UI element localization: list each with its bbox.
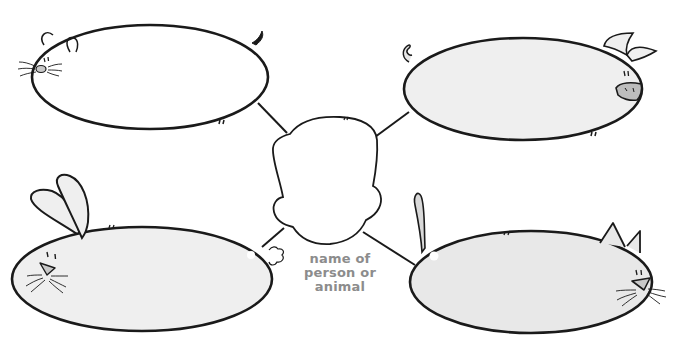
mouse-node[interactable] <box>18 25 268 129</box>
center-label-line-3: animal <box>290 280 390 294</box>
mouse-nose-icon <box>36 66 46 73</box>
rabbit-tail-icon <box>269 247 283 265</box>
pig-tail-icon <box>403 45 412 62</box>
diagram-canvas <box>0 0 685 354</box>
center-label: name of person or animal <box>290 252 390 294</box>
pig-feet-icon <box>591 132 596 136</box>
cat-ear-back-icon <box>600 223 625 247</box>
head-outline-icon <box>273 117 381 244</box>
cat-highlight <box>430 252 439 261</box>
cat-ear-front-icon <box>627 231 640 253</box>
center-label-line-1: name of <box>290 252 390 266</box>
center-label-line-2: person or <box>290 266 390 280</box>
pig-ear-front-icon <box>627 47 656 61</box>
cat-tail-icon <box>415 193 425 252</box>
mouse-feet-icon <box>219 120 224 124</box>
pig-body[interactable] <box>404 38 642 140</box>
rabbit-highlight <box>247 251 255 259</box>
rabbit-node[interactable] <box>12 175 283 331</box>
connector-mouse <box>258 103 287 133</box>
connector-pig <box>375 112 409 137</box>
center-head[interactable] <box>273 117 381 244</box>
cat-node[interactable] <box>410 193 666 333</box>
connector-rabbit <box>262 228 284 247</box>
mouse-tail-icon <box>252 31 263 45</box>
pig-node[interactable] <box>403 33 656 140</box>
cat-body[interactable] <box>410 231 652 333</box>
mouse-ear-back-icon <box>42 33 53 45</box>
